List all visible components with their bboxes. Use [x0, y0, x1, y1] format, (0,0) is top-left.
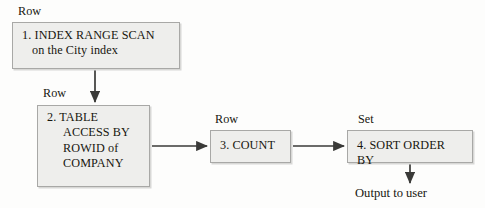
execution-plan-diagram: Row Row Row Set Output to user 1. INDEX … [0, 0, 485, 208]
node-1-line-1: 1. INDEX RANGE SCAN [22, 28, 155, 42]
label-set-node-4: Set [358, 112, 374, 126]
node-2-line-2: ACCESS BY [47, 125, 141, 140]
node-4-line-1: 4. SORT ORDER BY [357, 138, 445, 167]
node-2-line-1: 2. TABLE [47, 110, 98, 124]
label-row-node-3: Row [215, 112, 238, 126]
node-index-range-scan[interactable]: 1. INDEX RANGE SCAN on the City index [12, 22, 180, 69]
node-2-line-4: COMPANY [47, 156, 141, 171]
label-row-node-2: Row [43, 86, 66, 100]
node-table-access-by-rowid[interactable]: 2. TABLE ACCESS BY ROWID of COMPANY [37, 105, 150, 187]
node-3-line-1: 3. COUNT [220, 138, 275, 152]
label-row-node-1: Row [18, 4, 41, 18]
node-2-line-3: ROWID of [47, 141, 141, 156]
node-sort-order-by[interactable]: 4. SORT ORDER BY [347, 130, 473, 163]
label-output-to-user: Output to user [355, 186, 427, 200]
node-1-line-2: on the City index [22, 43, 171, 58]
node-count[interactable]: 3. COUNT [210, 130, 291, 163]
